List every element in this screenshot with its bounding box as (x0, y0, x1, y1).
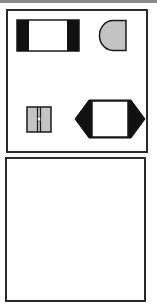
empty-panel (5, 157, 146, 302)
gray-split-square-icon[interactable]: Gray split square (26, 106, 52, 133)
black-ended-rectangle-icon[interactable]: Black-ended rectangle (16, 19, 80, 52)
black-hexagon-icon[interactable]: Black hexagon with white rectangle (74, 98, 146, 140)
diagram-canvas: Black-ended rectangle Gray D-shape Gray … (0, 0, 157, 307)
gray-d-shape-icon[interactable]: Gray D-shape (98, 19, 128, 52)
shapes-panel: Black-ended rectangle Gray D-shape Gray … (6, 9, 148, 153)
top-rule-divider (0, 0, 157, 3)
